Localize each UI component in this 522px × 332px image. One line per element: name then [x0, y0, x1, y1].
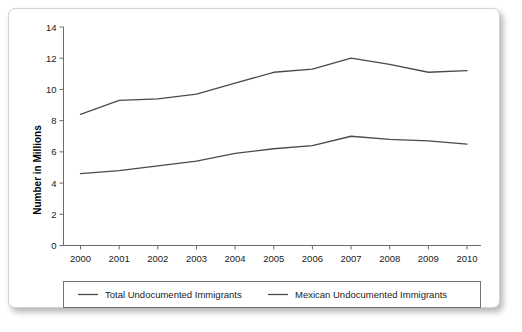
y-tick-label: 8 [51, 115, 56, 126]
y-tick-label: 2 [51, 209, 56, 220]
y-axis-title: Number in Millions [32, 125, 43, 215]
x-tick-label: 2006 [302, 253, 323, 264]
y-tick-label: 10 [46, 84, 57, 95]
x-axis-ticks: 2000200120022003200420052006200720082009… [70, 246, 478, 264]
chart-figure: Number in Millions 02468101214 200020012… [0, 0, 522, 332]
y-axis-ticks: 02468101214 [46, 22, 64, 252]
x-tick-label: 2002 [147, 253, 168, 264]
line-chart: Number in Millions 02468101214 200020012… [0, 0, 522, 332]
y-tick-label: 14 [46, 22, 57, 33]
series-line-2 [81, 136, 468, 173]
legend-label-1: Total Undocumented Immigrants [105, 289, 242, 300]
x-tick-label: 2000 [70, 253, 91, 264]
x-tick-label: 2003 [186, 253, 207, 264]
x-tick-label: 2008 [379, 253, 400, 264]
data-series-group [81, 58, 468, 174]
series-line-1 [81, 58, 468, 114]
x-tick-label: 2007 [340, 253, 361, 264]
x-tick-label: 2001 [109, 253, 130, 264]
y-tick-label: 12 [46, 53, 57, 64]
x-tick-label: 2005 [263, 253, 284, 264]
y-tick-label: 4 [51, 178, 56, 189]
y-tick-label: 0 [51, 240, 56, 251]
x-tick-label: 2009 [418, 253, 439, 264]
legend-label-2: Mexican Undocumented Immigrants [295, 289, 447, 300]
x-tick-label: 2004 [225, 253, 246, 264]
x-tick-label: 2010 [456, 253, 477, 264]
y-tick-label: 6 [51, 146, 56, 157]
